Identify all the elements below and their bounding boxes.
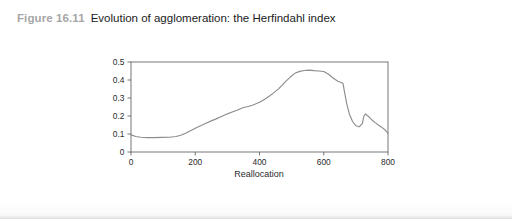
x-tick-label: 800: [381, 157, 395, 167]
y-axis-ticks: [128, 62, 132, 152]
y-tick-label: 0: [120, 147, 125, 157]
chart-axes: 0200400600800 00.10.20.30.40.5 Reallocat…: [113, 57, 395, 179]
x-axis-tick-labels: 0200400600800: [129, 157, 396, 167]
y-tick-label: 0.2: [113, 111, 125, 121]
chart-series: [131, 70, 388, 138]
y-tick-label: 0.4: [113, 75, 125, 85]
y-tick-label: 0.3: [113, 93, 125, 103]
x-axis-ticks: [131, 152, 388, 156]
y-tick-label: 0.5: [113, 57, 125, 67]
x-tick-label: 0: [129, 157, 134, 167]
x-tick-label: 200: [188, 157, 202, 167]
x-tick-label: 400: [253, 157, 267, 167]
figure-number: Figure 16.11: [17, 12, 85, 24]
x-axis-title: Reallocation: [234, 169, 284, 179]
figure-title: Evolution of agglomeration: the Herfinda…: [91, 12, 336, 24]
series-line: [131, 70, 388, 138]
figure-page: Figure 16.11Evolution of agglomeration: …: [0, 0, 512, 219]
plot-frame: [131, 62, 388, 152]
herfindahl-index-chart: 0200400600800 00.10.20.30.40.5 Reallocat…: [0, 34, 512, 184]
x-tick-label: 600: [317, 157, 331, 167]
y-axis-tick-labels: 00.10.20.30.40.5: [113, 57, 125, 157]
figure-caption: Figure 16.11Evolution of agglomeration: …: [17, 10, 336, 26]
y-tick-label: 0.1: [113, 129, 125, 139]
